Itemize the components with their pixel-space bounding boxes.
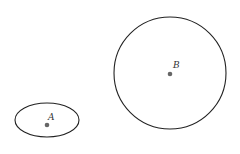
label-b: B [172,60,180,70]
ellipse-a [15,103,79,137]
point-a [45,123,50,128]
label-a: A [47,112,55,122]
point-b [168,72,173,77]
diagram-canvas: A B [0,0,240,154]
